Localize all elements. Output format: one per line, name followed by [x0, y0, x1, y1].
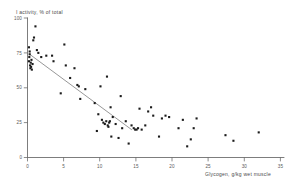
data-point	[147, 110, 149, 112]
data-point	[32, 63, 34, 65]
data-point	[37, 52, 39, 54]
data-point	[51, 55, 53, 57]
data-point	[110, 106, 112, 108]
data-point	[182, 119, 184, 121]
data-point	[196, 117, 198, 119]
data-point	[164, 115, 166, 117]
data-point	[120, 95, 122, 97]
y-tick-label: 25	[17, 120, 23, 125]
data-point	[110, 136, 112, 138]
data-point	[125, 120, 127, 122]
trend-line	[30, 54, 132, 129]
data-point	[117, 137, 119, 139]
data-point	[28, 60, 30, 62]
data-point	[34, 25, 36, 27]
data-point	[186, 145, 188, 147]
data-point	[78, 85, 80, 87]
data-point	[28, 46, 30, 48]
x-tick-label: 30	[242, 164, 248, 169]
y-tick-label: 0	[20, 155, 23, 160]
data-point	[65, 64, 67, 66]
data-point	[94, 102, 96, 104]
data-point	[84, 88, 86, 90]
data-point	[168, 116, 170, 118]
data-point	[30, 62, 32, 64]
data-point	[128, 143, 130, 145]
y-axis-title: I activity, % of total	[16, 9, 63, 15]
data-point	[224, 134, 226, 136]
data-point	[190, 138, 192, 140]
data-point	[112, 116, 114, 118]
data-point	[60, 92, 62, 94]
data-point	[152, 115, 154, 117]
data-point	[161, 117, 163, 119]
data-point	[193, 127, 195, 129]
data-point	[138, 108, 140, 110]
x-axis-title: Glycogen, g/kg wet muscle	[205, 171, 271, 177]
data-point	[99, 85, 101, 87]
data-point	[31, 69, 33, 71]
data-point	[158, 136, 160, 138]
y-tick-label: 75	[17, 51, 23, 56]
data-point	[32, 39, 34, 41]
data-point	[69, 77, 71, 79]
data-point	[141, 129, 143, 131]
data-point	[29, 53, 31, 55]
x-tick-label: 25	[205, 164, 211, 169]
x-tick-label: 10	[97, 164, 103, 169]
data-point	[131, 124, 133, 126]
x-tick-label: 15	[133, 164, 139, 169]
x-tick-label: 20	[169, 164, 175, 169]
data-point	[150, 106, 152, 108]
data-point	[115, 123, 117, 125]
data-point	[63, 43, 65, 45]
data-point	[28, 56, 30, 58]
data-point	[40, 56, 42, 58]
data-point	[137, 127, 139, 129]
data-point	[107, 126, 109, 128]
y-axis-ticks: 100 75 50 25 0	[14, 16, 28, 161]
data-point	[33, 36, 35, 38]
y-tick-label: 50	[17, 85, 23, 90]
data-point	[258, 131, 260, 133]
data-point	[73, 67, 75, 69]
x-tick-label: 35	[278, 164, 284, 169]
data-point	[45, 55, 47, 57]
data-point	[109, 120, 111, 122]
data-point	[29, 50, 31, 52]
data-point	[144, 124, 146, 126]
data-point	[104, 123, 106, 125]
scatter-plot-figure: I activity, % of total 100 75 50 25 0 0 …	[0, 0, 291, 186]
data-points-layer	[28, 25, 260, 147]
data-point	[97, 113, 99, 115]
chart-svg: I activity, % of total 100 75 50 25 0 0 …	[0, 0, 291, 186]
data-point	[96, 130, 98, 132]
data-point	[232, 140, 234, 142]
data-point	[121, 127, 123, 129]
y-tick-label: 100	[14, 16, 22, 21]
data-point	[30, 59, 32, 61]
x-tick-label: 0	[26, 164, 29, 169]
x-tick-label: 5	[62, 164, 65, 169]
data-point	[101, 119, 103, 121]
data-point	[177, 127, 179, 129]
x-axis-ticks: 0 5 10 15 20 25 30 35	[26, 158, 283, 169]
data-point	[106, 76, 108, 78]
data-point	[105, 120, 107, 122]
data-point	[36, 49, 38, 51]
data-point	[52, 60, 54, 62]
data-point	[79, 98, 81, 100]
